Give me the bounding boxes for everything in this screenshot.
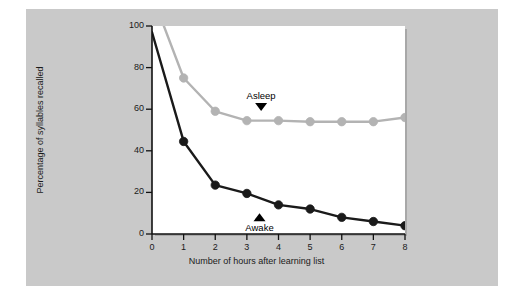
data-point-asleep [179, 74, 187, 82]
y-tick-label: 80 [104, 62, 144, 72]
data-point-asleep [338, 117, 346, 125]
data-point-awake [338, 213, 346, 221]
data-point-asleep [306, 117, 314, 125]
series-label-asleep: Asleep [231, 90, 291, 101]
data-point-asleep [401, 113, 409, 121]
pointer-triangle-asleep [255, 103, 267, 111]
data-point-awake [306, 205, 314, 213]
data-point-awake [179, 137, 187, 145]
x-tick-label: 8 [385, 242, 425, 252]
series-line-awake [152, 32, 405, 225]
series-label-awake: Awake [230, 222, 290, 233]
y-tick-label: 60 [104, 103, 144, 113]
y-tick-label: 0 [104, 228, 144, 238]
pointer-triangle-awake [254, 213, 266, 221]
figure-container: Number of hours after learning list Perc… [0, 0, 513, 295]
data-point-awake [401, 221, 409, 229]
data-point-awake [369, 217, 377, 225]
x-axis-title: Number of hours after learning list [0, 256, 513, 266]
series-layer [152, 0, 409, 230]
y-axis-title: Percentage of syllables recalled [35, 30, 45, 230]
data-point-awake [274, 201, 282, 209]
data-point-asleep [369, 117, 377, 125]
data-point-asleep [243, 116, 251, 124]
y-tick-label: 20 [104, 186, 144, 196]
data-point-awake [243, 189, 251, 197]
data-point-awake [211, 181, 219, 189]
y-tick-label: 40 [104, 145, 144, 155]
y-tick-label: 100 [104, 20, 144, 30]
series-line-asleep [152, 0, 405, 122]
data-point-asleep [211, 107, 219, 115]
data-point-asleep [274, 116, 282, 124]
